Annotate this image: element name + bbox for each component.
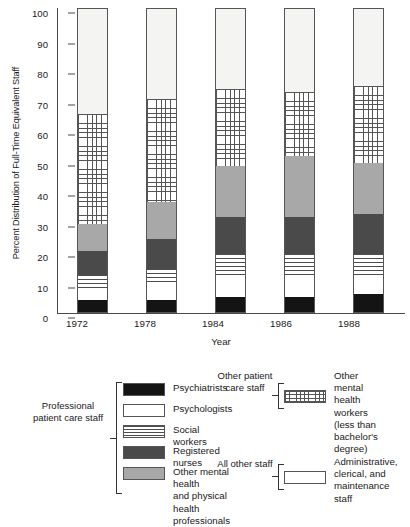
bar-segment-social_workers-1972[interactable] — [78, 275, 107, 287]
solid-black-swatch-icon — [123, 383, 165, 396]
x-axis-line — [57, 313, 405, 314]
x-tick-label: 1986 — [246, 318, 316, 329]
y-tick-label: 60 — [18, 130, 48, 141]
solid-white-swatch-icon — [284, 471, 326, 484]
bar-segment-psychiatrists-1972[interactable] — [78, 300, 107, 312]
y-tick-label: 90 — [18, 38, 48, 49]
bar-segment-registered_nurses-1986[interactable] — [285, 217, 314, 254]
bar-segment-all_other_staff-1978[interactable] — [147, 8, 176, 99]
y-tick-label: 80 — [18, 69, 48, 80]
bar-segment-registered_nurses-1988[interactable] — [354, 214, 383, 254]
stacked-bar-1988[interactable] — [353, 8, 384, 313]
bar-slot-1988 — [334, 8, 403, 313]
legend-item[interactable]: Other mental health workers (less than b… — [284, 389, 378, 455]
y-tick-label: 50 — [18, 160, 48, 171]
legend-brace-stem — [272, 395, 279, 396]
stacked-bar-1986[interactable] — [284, 8, 315, 313]
bar-segment-other_professionals-1984[interactable] — [216, 166, 245, 218]
bar-segment-psychologists-1978[interactable] — [147, 285, 176, 300]
stacked-bar-1978[interactable] — [146, 8, 177, 313]
bar-slot-1972 — [58, 8, 127, 313]
legend-item[interactable]: Other mental health and physical health … — [123, 466, 230, 527]
cross-hatch-grid-swatch-icon — [284, 390, 326, 403]
legend-group-label: Other patient care staff — [216, 370, 274, 393]
y-tick-label: 40 — [18, 191, 48, 202]
bar-segment-other_professionals-1972[interactable] — [78, 224, 107, 251]
y-tick-label: 20 — [18, 252, 48, 263]
legend-item[interactable]: Psychologists — [123, 403, 232, 417]
bar-segment-registered_nurses-1984[interactable] — [216, 217, 245, 254]
legend-item-label: Other mental health and physical health … — [173, 466, 230, 527]
bar-segment-psychologists-1986[interactable] — [285, 275, 314, 296]
bar-segment-psychiatrists-1986[interactable] — [285, 297, 314, 312]
y-tick-label: 30 — [18, 221, 48, 232]
bar-segment-psychiatrists-1978[interactable] — [147, 300, 176, 312]
bar-segment-registered_nurses-1972[interactable] — [78, 251, 107, 275]
y-tick-label: 10 — [18, 282, 48, 293]
legend-region: Professional patient care staff Psychiat… — [0, 368, 410, 518]
bar-segment-other_professionals-1986[interactable] — [285, 156, 314, 217]
legend-item[interactable]: Administrative, clerical, and maintenanc… — [284, 470, 398, 505]
x-tick-label: 1978 — [110, 318, 180, 329]
bar-segment-social_workers-1988[interactable] — [354, 254, 383, 278]
plot-area — [58, 8, 403, 313]
x-axis-label: Year — [0, 336, 410, 347]
bar-segment-all_other_staff-1986[interactable] — [285, 8, 314, 92]
legend-brace-stem — [272, 476, 279, 477]
bar-segment-all_other_staff-1972[interactable] — [78, 8, 107, 114]
bar-segment-other_mh_workers-1978[interactable] — [147, 99, 176, 203]
bar-segment-psychologists-1972[interactable] — [78, 288, 107, 300]
bar-segment-psychiatrists-1988[interactable] — [354, 294, 383, 312]
bar-slot-1986 — [265, 8, 334, 313]
solid-medium-gray-swatch-icon — [123, 467, 165, 480]
stacked-bar-1984[interactable] — [215, 8, 246, 313]
bar-segment-social_workers-1986[interactable] — [285, 254, 314, 275]
x-tick-label: 1988 — [314, 318, 384, 329]
stacked-bar-chart: Percent Distribution of Full-Time Equiva… — [0, 0, 410, 368]
bar-slot-1984 — [196, 8, 265, 313]
bar-slot-1978 — [127, 8, 196, 313]
stacked-bar-1972[interactable] — [77, 8, 108, 313]
horizontal-stripes-swatch-icon — [123, 425, 165, 438]
legend-item-label: Psychologists — [173, 403, 232, 415]
x-tick-label: 1984 — [178, 318, 248, 329]
legend-brace-stem — [110, 438, 117, 439]
y-tick-label: 70 — [18, 99, 48, 110]
bar-segment-psychologists-1984[interactable] — [216, 278, 245, 296]
bar-segment-other_mh_workers-1986[interactable] — [285, 92, 314, 156]
y-tick-label: 100 — [18, 8, 48, 19]
legend-item-label: Other mental health workers (less than b… — [334, 370, 378, 455]
bar-segment-all_other_staff-1988[interactable] — [354, 8, 383, 86]
bar-segment-psychologists-1988[interactable] — [354, 278, 383, 293]
bar-segment-psychiatrists-1984[interactable] — [216, 297, 245, 312]
solid-dark-gray-swatch-icon — [123, 446, 165, 459]
bar-segment-social_workers-1984[interactable] — [216, 254, 245, 278]
bar-segment-registered_nurses-1978[interactable] — [147, 239, 176, 270]
legend-group-label: All other staff — [216, 458, 274, 470]
bar-segment-social_workers-1978[interactable] — [147, 269, 176, 284]
solid-white-swatch-icon — [123, 404, 165, 417]
bar-segment-other_mh_workers-1984[interactable] — [216, 89, 245, 165]
bar-segment-other_mh_workers-1988[interactable] — [354, 86, 383, 162]
bar-segment-other_professionals-1988[interactable] — [354, 163, 383, 215]
bar-segment-all_other_staff-1984[interactable] — [216, 8, 245, 89]
x-tick-label: 1972 — [42, 318, 112, 329]
y-axis-tick-labels: 100 90 80 70 60 50 40 30 20 10 0 — [18, 5, 48, 325]
bar-segment-other_professionals-1978[interactable] — [147, 202, 176, 239]
legend-item[interactable]: Psychiatrists — [123, 382, 227, 396]
legend-item-label: Administrative, clerical, and maintenanc… — [334, 456, 398, 505]
bar-segment-other_mh_workers-1972[interactable] — [78, 114, 107, 224]
legend-group-label: Professional patient care staff — [28, 400, 108, 423]
